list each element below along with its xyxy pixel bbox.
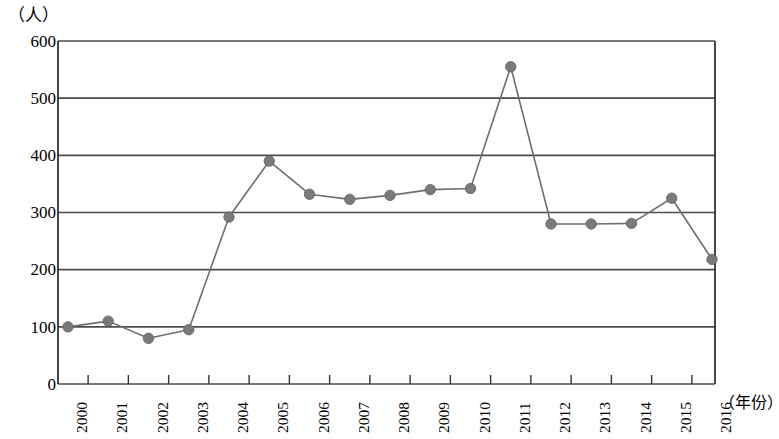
x-tick-label-2014: 2014: [638, 402, 654, 433]
x-tick-label-2005: 2005: [275, 402, 291, 433]
x-tick-label-2012: 2012: [557, 402, 573, 433]
x-tick-label-2000: 2000: [74, 402, 90, 433]
x-tick-label-2015: 2015: [678, 402, 694, 433]
x-tick-label-2004: 2004: [235, 402, 251, 433]
x-tick-label-2009: 2009: [436, 402, 452, 433]
x-tick-label-2006: 2006: [316, 402, 332, 433]
x-tick-label-2003: 2003: [195, 402, 211, 433]
x-tick-label-2013: 2013: [597, 402, 613, 433]
x-tick-label-2010: 2010: [477, 402, 493, 433]
x-tick-label-2007: 2007: [356, 402, 372, 433]
x-tick-label-2002: 2002: [155, 402, 171, 433]
x-tick-label-2011: 2011: [517, 403, 533, 433]
x-axis-tick-labels: 2000200120022003200420052006200720082009…: [0, 0, 779, 439]
x-tick-label-2001: 2001: [114, 402, 130, 433]
x-tick-label-2008: 2008: [396, 402, 412, 433]
line-chart: （人） 600 500 400 300 200 100 0 2000200120…: [0, 0, 779, 439]
x-axis-unit-label: （年份）: [719, 394, 779, 412]
